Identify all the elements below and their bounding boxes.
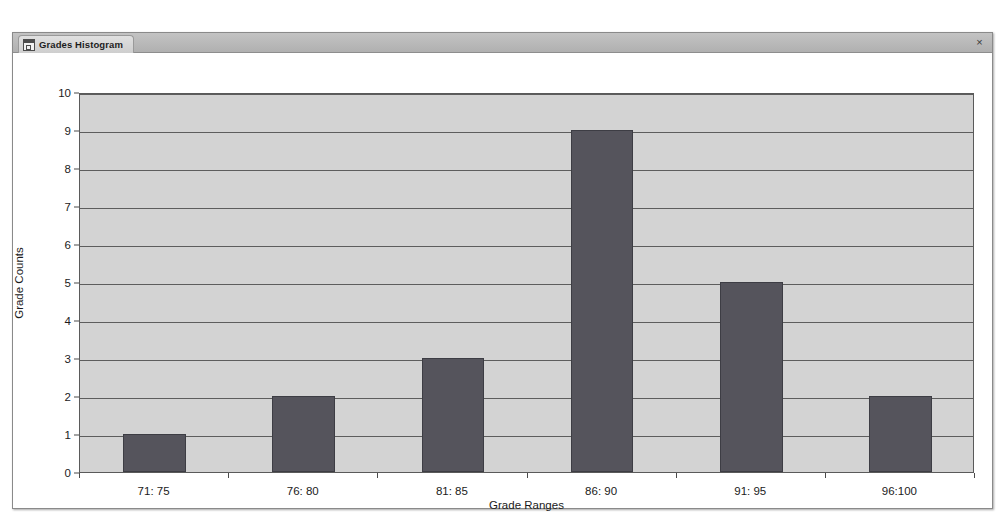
- bar-series: [80, 94, 973, 472]
- y-axis-tick-mark: [74, 93, 79, 94]
- y-axis-label: Grade Counts: [13, 247, 25, 319]
- y-axis-tick-mark: [74, 397, 79, 398]
- tab-grades-histogram[interactable]: Grades Histogram: [18, 35, 134, 53]
- x-axis-tick-mark: [527, 473, 528, 478]
- window-title-bar: Grades Histogram ×: [13, 33, 992, 53]
- histogram-chart: 012345678910 71: 7576: 8081: 8586: 9091:…: [13, 53, 992, 508]
- y-axis-tick-mark: [74, 321, 79, 322]
- grades-histogram-window: Grades Histogram × 012345678910 71: 7576…: [12, 32, 993, 509]
- y-axis-tick-mark: [74, 245, 79, 246]
- y-axis-tick-mark: [74, 131, 79, 132]
- x-axis-tick-label: 91: 95: [734, 485, 766, 497]
- y-axis-tick-label: 3: [65, 353, 71, 365]
- x-axis-tick-mark: [974, 473, 975, 478]
- y-axis-tick-label: 10: [58, 87, 71, 99]
- bar: [720, 282, 783, 472]
- x-axis-tick-label: 86: 90: [585, 485, 617, 497]
- y-axis-tick-label: 8: [65, 163, 71, 175]
- y-axis-tick-label: 7: [65, 201, 71, 213]
- form-window-icon: [23, 39, 35, 51]
- y-axis-tick-mark: [74, 359, 79, 360]
- y-axis-tick-mark: [74, 283, 79, 284]
- x-axis-tick-label: 76: 80: [287, 485, 319, 497]
- bar: [869, 396, 932, 472]
- x-axis-tick-mark: [79, 473, 80, 478]
- bar: [272, 396, 335, 472]
- close-icon[interactable]: ×: [972, 35, 987, 50]
- y-axis-tick-label: 9: [65, 125, 71, 137]
- plot-area: [79, 93, 974, 473]
- bar: [422, 358, 485, 472]
- x-axis-tick-mark: [676, 473, 677, 478]
- x-axis-tick-mark: [825, 473, 826, 478]
- y-axis-tick-mark: [74, 207, 79, 208]
- x-axis-tick-mark: [377, 473, 378, 478]
- y-axis-tick-label: 4: [65, 315, 71, 327]
- x-axis-tick-mark: [228, 473, 229, 478]
- y-axis-tick-label: 2: [65, 391, 71, 403]
- bar: [123, 434, 186, 472]
- y-axis-tick-label: 5: [65, 277, 71, 289]
- tab-label: Grades Histogram: [39, 39, 123, 50]
- bar: [571, 130, 634, 472]
- y-axis-tick-mark: [74, 169, 79, 170]
- x-axis-tick-label: 96:100: [882, 485, 917, 497]
- y-axis-tick-label: 0: [65, 467, 71, 479]
- y-axis-tick-label: 6: [65, 239, 71, 251]
- x-axis-tick-label: 81: 85: [436, 485, 468, 497]
- x-axis-label: Grade Ranges: [79, 499, 974, 511]
- x-axis-tick-label: 71: 75: [138, 485, 170, 497]
- y-axis-tick-mark: [74, 435, 79, 436]
- y-axis-tick-label: 1: [65, 429, 71, 441]
